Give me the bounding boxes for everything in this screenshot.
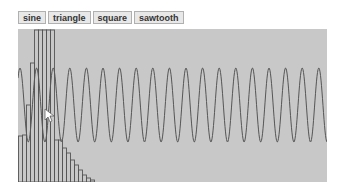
sine-button[interactable]: sine [18,11,46,24]
waveform-toolbar: sine triangle square sawtooth [18,11,184,24]
square-button[interactable]: square [93,11,133,24]
triangle-button[interactable]: triangle [48,11,91,24]
mouse-cursor-icon [44,108,56,124]
waveform-canvas[interactable] [18,29,327,182]
sawtooth-button[interactable]: sawtooth [134,11,184,24]
waveform-visualization [18,29,327,182]
